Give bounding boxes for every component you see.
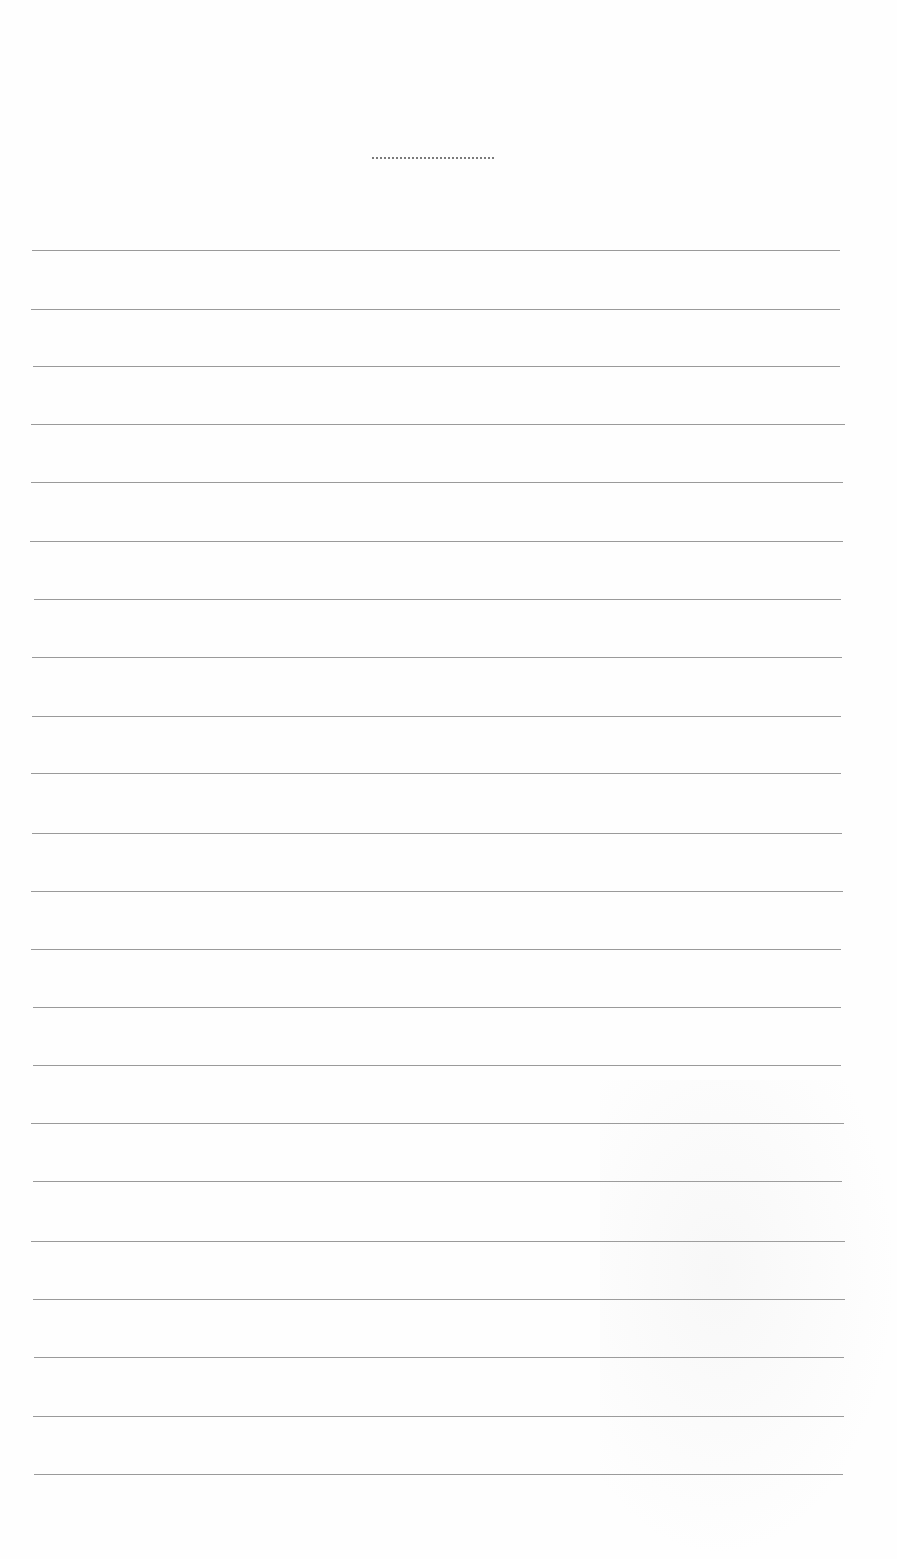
ruled-line	[33, 1065, 841, 1066]
ruled-line	[33, 1007, 841, 1008]
ruled-line	[32, 833, 842, 834]
ruled-line	[34, 599, 841, 600]
ruled-line	[31, 482, 843, 483]
ruled-line	[30, 541, 843, 542]
ruled-line	[31, 424, 845, 425]
ruled-line	[31, 891, 843, 892]
title-underline	[372, 157, 494, 159]
ruled-line	[32, 716, 841, 717]
ruled-line	[31, 309, 840, 310]
show-through-smudge	[600, 1080, 897, 1559]
lined-paper-page	[0, 0, 897, 1559]
ruled-line	[31, 773, 841, 774]
ruled-line	[32, 250, 840, 251]
ruled-line	[32, 657, 842, 658]
ruled-line	[33, 366, 840, 367]
ruled-line	[31, 949, 841, 950]
